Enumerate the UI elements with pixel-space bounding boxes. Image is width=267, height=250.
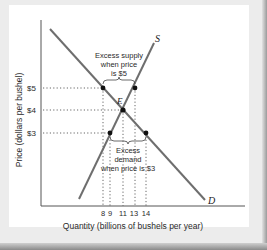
y-tick-4: $4	[27, 106, 36, 115]
y-axis-title: Price (dollars per bushel)	[14, 73, 24, 168]
x-tick-11: 11	[119, 209, 127, 218]
supply-label: S	[155, 33, 160, 44]
x-tick-8: 8	[101, 209, 105, 218]
supply-demand-chart: Price (dollars per bushel) $5 $4 $3 S D …	[0, 0, 267, 250]
x-tick-14: 14	[142, 209, 150, 218]
y-tick-5: $5	[27, 84, 36, 93]
excess-demand-brace	[110, 137, 146, 144]
excess-demand-line2: demand	[114, 155, 141, 164]
price-guides	[43, 88, 123, 133]
excess-supply-line1: Excess supply	[95, 51, 143, 60]
excess-supply-line3: is $5	[111, 69, 127, 78]
excess-supply-brace	[103, 77, 135, 84]
supply-point-p5	[133, 86, 138, 91]
supply-point-p3	[108, 131, 113, 136]
x-tick-9: 9	[108, 209, 112, 218]
equilibrium-label: E	[116, 96, 123, 106]
excess-demand-line3: when price is $3	[100, 164, 155, 173]
demand-point-p3	[144, 131, 149, 136]
x-tick-13: 13	[130, 209, 138, 218]
x-axis-title: Quantity (billions of bushels per year)	[63, 221, 203, 231]
excess-supply-line2: when price	[100, 60, 137, 69]
equilibrium-point	[120, 107, 125, 112]
excess-demand-line1: Excess	[116, 146, 140, 155]
y-tick-3: $3	[27, 129, 36, 138]
demand-label: D	[207, 195, 216, 206]
demand-point-p5	[101, 86, 106, 91]
